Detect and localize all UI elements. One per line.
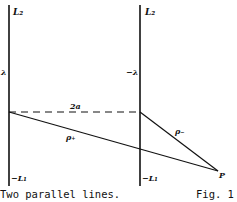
rho-plus-label: ρ₊ <box>65 132 76 142</box>
rho-plus-line <box>9 112 218 171</box>
point-p-label: P <box>218 170 226 180</box>
left-bottom-label: −L₁ <box>11 173 27 183</box>
right-lambda-label: −λ <box>126 67 138 77</box>
left-top-label: L₂ <box>12 7 23 17</box>
right-bottom-label: −L₁ <box>142 173 158 183</box>
figure-label: Fig. 1 <box>196 188 234 200</box>
right-top-label: L₂ <box>144 7 155 17</box>
rho-minus-label: ρ₋ <box>174 126 185 136</box>
left-lambda-label: λ <box>0 67 7 77</box>
caption-text: Two parallel lines. <box>0 188 120 200</box>
parallel-lines-diagram: L₂ L₂ λ −λ 2a ρ₊ ρ₋ P −L₁ −L₁ Two parall… <box>0 0 237 202</box>
rho-minus-line <box>140 112 218 171</box>
separation-label: 2a <box>69 101 81 111</box>
